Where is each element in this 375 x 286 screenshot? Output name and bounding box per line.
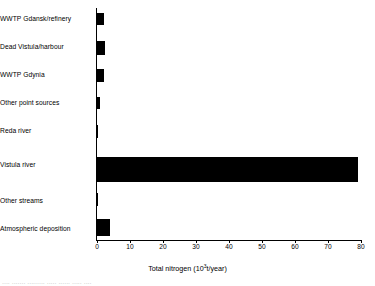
plot-area: [97, 8, 361, 240]
x-tick-label-5: 50: [252, 243, 272, 251]
x-tick-label-3: 30: [186, 243, 206, 251]
x-axis-title-prefix: Total nitrogen (10: [148, 264, 204, 273]
x-axis-title-suffix: t/year): [206, 264, 226, 273]
x-tick-label-0: 0: [87, 243, 107, 251]
x-tick-label-7: 70: [318, 243, 338, 251]
x-tick-label-2: 20: [153, 243, 173, 251]
bar-other-streams: [97, 193, 98, 206]
x-tick-label-1: 10: [120, 243, 140, 251]
x-axis-title: Total nitrogen (103t/year): [0, 264, 375, 274]
bar-other-point-sources: [97, 97, 100, 109]
bar-atmospheric-deposition: [97, 219, 110, 236]
bar-wwtp-gdansk-refinery: [97, 13, 104, 25]
y-axis-label-3: Other point sources: [0, 99, 92, 107]
bar-reda-river: [97, 125, 98, 138]
x-axis-ticks: 0 10 20 30 40 50 60 70 80: [97, 240, 367, 254]
y-axis-category-labels: WWTP Gdansk/refinery Dead Vistula/harbou…: [0, 8, 92, 240]
y-axis-label-0: WWTP Gdansk/refinery: [0, 15, 92, 23]
x-tick-label-6: 60: [285, 243, 305, 251]
bar-wwtp-gdynia: [97, 69, 104, 82]
y-axis-label-6: Other streams: [0, 197, 92, 205]
bar-chart-figure: WWTP Gdansk/refinery Dead Vistula/harbou…: [0, 0, 375, 286]
bar-dead-vistula-harbour: [97, 41, 105, 55]
caption-remnant: .... ....... ......... ..... ...... ....…: [2, 277, 375, 286]
y-axis-label-7: Atmospheric deposition: [0, 225, 92, 233]
x-tick-label-4: 40: [219, 243, 239, 251]
y-axis-label-4: Reda river: [0, 127, 92, 135]
y-axis-label-1: Dead Vistula/harbour: [0, 43, 92, 51]
y-axis-label-5: Vistula river: [0, 161, 92, 169]
bar-vistula-river: [97, 157, 358, 182]
x-tick-label-8: 80: [351, 243, 371, 251]
y-axis-label-2: WWTP Gdynia: [0, 71, 92, 79]
